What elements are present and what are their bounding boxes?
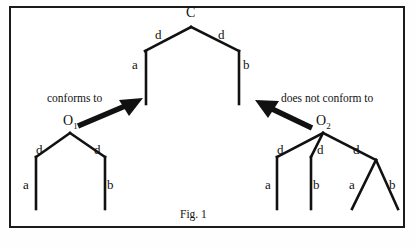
leaf-label-o1-right: b [107, 178, 114, 191]
node-label-o1-base: O [63, 113, 73, 128]
edge-label-o2-left: d [277, 143, 284, 156]
relation-label-not-conforms: does not conform to [281, 93, 373, 105]
node-label-o2-subscript: 2 [326, 121, 331, 131]
edge-label-o1-left: d [36, 143, 43, 156]
edge-label-o2-right: d [353, 143, 360, 156]
figure-canvas: C d d a b O1 d d a b O2 d d d a b a b co… [0, 0, 415, 248]
leaf-label-o2-4: b [389, 178, 396, 191]
edge-label-c-left: d [155, 28, 162, 41]
o2-leaf-3-line [352, 160, 376, 209]
edge-label-c-right: d [218, 28, 225, 41]
leaf-label-o2-2: b [313, 178, 320, 191]
relation-label-conforms: conforms to [47, 93, 102, 105]
node-label-o2: O2 [316, 114, 331, 131]
figure-caption: Fig. 1 [180, 209, 207, 221]
c-edge-right-line [191, 27, 239, 51]
c-edge-left-line [145, 27, 191, 51]
leaf-label-o2-3: a [349, 178, 355, 191]
leaf-label-c-right: b [243, 58, 250, 71]
leaf-label-o1-left: a [23, 178, 29, 191]
node-label-o2-base: O [316, 113, 326, 128]
node-label-c: C [186, 6, 195, 20]
tree-o2-strokes [277, 133, 398, 209]
node-label-o1: O1 [63, 114, 78, 131]
edge-label-o2-mid: d [317, 143, 324, 156]
o2-edge-right-line [323, 133, 376, 160]
leaf-label-o2-1: a [265, 178, 271, 191]
node-label-o1-subscript: 1 [73, 121, 78, 131]
leaf-label-c-left: a [132, 58, 138, 71]
edge-label-o1-right: d [94, 143, 101, 156]
